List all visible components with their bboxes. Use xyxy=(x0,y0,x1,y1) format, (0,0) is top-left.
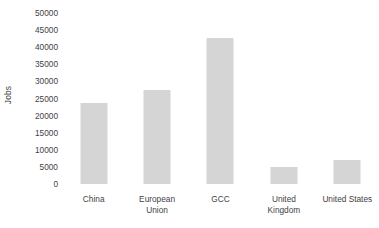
x-axis-label-line: European xyxy=(125,194,188,205)
y-axis-tick-15000: 15000 xyxy=(35,128,58,138)
x-axis-label-line: United States xyxy=(316,194,379,205)
x-axis-label-line: United xyxy=(252,194,315,205)
x-axis-label-united-kingdom: UnitedKingdom xyxy=(252,194,315,216)
bar-gcc[interactable] xyxy=(207,38,234,184)
x-axis-label-line: Union xyxy=(125,205,188,216)
y-axis-tick-0: 0 xyxy=(53,179,58,189)
bar-slot xyxy=(125,0,188,190)
y-axis-tick-25000: 25000 xyxy=(35,94,58,104)
y-axis-tick-30000: 30000 xyxy=(35,76,58,86)
y-axis-tick-labels: 0500010000150002000025000300003500040000… xyxy=(16,0,62,190)
bar-united-kingdom[interactable] xyxy=(270,167,297,184)
y-axis-tick-45000: 45000 xyxy=(35,25,58,35)
y-axis-tick-10000: 10000 xyxy=(35,145,58,155)
y-axis-title: Jobs xyxy=(0,0,16,190)
y-axis-tick-5000: 5000 xyxy=(40,162,58,172)
bars-layer xyxy=(62,0,379,190)
x-axis-label-united-states: United States xyxy=(316,194,379,205)
x-axis-label-line: GCC xyxy=(189,194,252,205)
bar-european-union[interactable] xyxy=(144,90,171,184)
x-axis-label-line: China xyxy=(62,194,125,205)
y-axis-tick-35000: 35000 xyxy=(35,59,58,69)
plot-area xyxy=(62,0,379,190)
x-axis-label-european-union: EuropeanUnion xyxy=(125,194,188,216)
y-axis-tick-20000: 20000 xyxy=(35,111,58,121)
bar-slot xyxy=(316,0,379,190)
bar-slot xyxy=(62,0,125,190)
bar-slot xyxy=(252,0,315,190)
x-axis-label-line: Kingdom xyxy=(252,205,315,216)
bar-chart-figure: Jobs 05000100001500020000250003000035000… xyxy=(0,0,379,228)
bar-united-states[interactable] xyxy=(334,160,361,184)
x-axis-category-labels: ChinaEuropeanUnionGCCUnitedKingdomUnited… xyxy=(62,190,379,228)
x-axis-label-china: China xyxy=(62,194,125,205)
bar-slot xyxy=(189,0,252,190)
y-axis-title-label: Jobs xyxy=(3,86,13,104)
y-axis-tick-40000: 40000 xyxy=(35,42,58,52)
x-axis-label-gcc: GCC xyxy=(189,194,252,205)
bar-china[interactable] xyxy=(80,103,107,184)
y-axis-tick-50000: 50000 xyxy=(35,8,58,18)
